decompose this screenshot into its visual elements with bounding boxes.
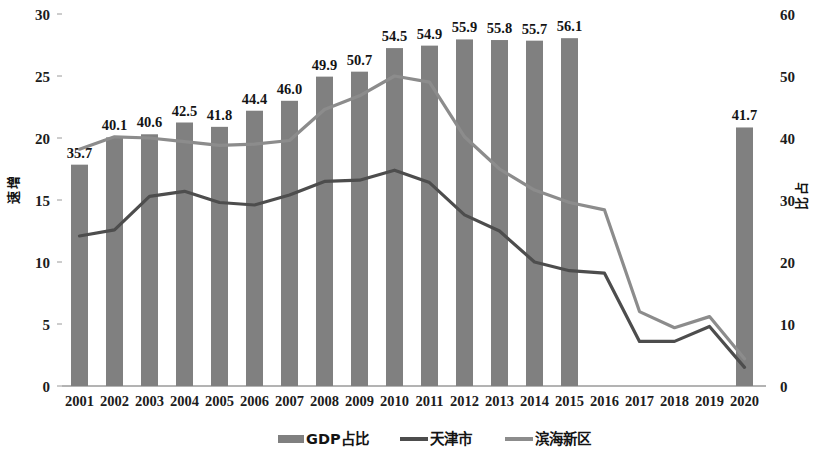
y2-axis-tick-label: 10	[780, 317, 795, 333]
bar	[316, 77, 333, 386]
bar-value-label: 41.8	[207, 107, 232, 123]
bar	[211, 127, 228, 386]
y2-axis-tick-label: 20	[780, 255, 795, 271]
y-axis-tick-label: 0	[43, 379, 51, 395]
legend-label: 天津市	[430, 430, 473, 447]
x-axis-tick-label: 2020	[730, 393, 759, 409]
bar	[141, 134, 158, 386]
x-axis-tick-label: 2010	[380, 393, 409, 409]
x-axis-tick-label: 2016	[590, 393, 619, 409]
chart-background	[0, 0, 822, 460]
bar-value-label: 40.6	[137, 114, 162, 130]
bar-value-label: 40.1	[102, 117, 127, 133]
bar-value-label: 42.5	[172, 103, 197, 119]
chart-legend: GDP占比天津市滨海新区	[278, 430, 592, 447]
bar-value-label: 56.1	[557, 18, 582, 34]
bar	[526, 41, 543, 386]
bar	[246, 111, 263, 386]
x-axis-tick-label: 2005	[205, 393, 234, 409]
x-axis-tick-label: 2004	[170, 393, 199, 409]
y2-axis-tick-label: 40	[780, 131, 795, 147]
x-axis-tick-label: 2001	[65, 393, 94, 409]
x-axis-tick-label: 2003	[135, 393, 164, 409]
bar-value-label: 50.7	[347, 52, 372, 68]
x-axis-tick-label: 2011	[415, 393, 443, 409]
x-axis-tick-label: 2019	[695, 393, 724, 409]
bar	[176, 123, 193, 387]
bar-value-label: 54.9	[417, 26, 442, 42]
axis-title-char: 增	[6, 176, 21, 189]
bar	[736, 127, 753, 386]
x-axis-tick-label: 2007	[275, 393, 304, 409]
y-axis-tick-label: 5	[43, 317, 51, 333]
axis-title-char: 占	[794, 182, 809, 195]
x-axis-tick-label: 2008	[310, 393, 339, 409]
bar-value-label: 49.9	[312, 57, 337, 73]
y2-axis-tick-label: 0	[780, 379, 788, 395]
bar	[351, 72, 368, 386]
bar-value-label: 55.8	[487, 20, 512, 36]
y-axis-tick-label: 15	[35, 193, 50, 209]
x-axis-tick-label: 2006	[240, 393, 269, 409]
x-axis-tick-label: 2017	[625, 393, 654, 409]
y-axis-tick-label: 25	[35, 69, 50, 85]
bar	[561, 38, 578, 386]
y2-axis-tick-label: 30	[780, 193, 795, 209]
bar	[71, 165, 88, 386]
bar-value-label: 55.9	[452, 19, 477, 35]
bar	[421, 46, 438, 386]
y-axis-tick-label: 20	[35, 131, 50, 147]
x-axis-tick-label: 2013	[485, 393, 514, 409]
y2-axis-tick-label: 60	[780, 7, 795, 23]
y-axis-tick-label: 10	[35, 255, 50, 271]
legend-bar-swatch	[278, 435, 304, 443]
bar	[106, 137, 123, 386]
x-axis-tick-label: 2014	[520, 393, 549, 409]
x-axis-tick-label: 2002	[100, 393, 129, 409]
combo-chart: 302520151050 6050403020100 35.740.140.64…	[0, 0, 822, 460]
y-axis-tick-label: 30	[35, 7, 50, 23]
x-axis-tick-label: 2018	[660, 393, 689, 409]
legend-label: GDP占比	[306, 430, 369, 447]
bar-value-label: 54.5	[382, 28, 407, 44]
y2-axis-tick-label: 50	[780, 69, 795, 85]
bar	[386, 48, 403, 386]
bar-value-label: 55.7	[522, 21, 547, 37]
bar	[456, 39, 473, 386]
x-axis-tick-label: 2015	[555, 393, 584, 409]
bar-value-label: 44.4	[242, 91, 267, 107]
x-axis-tick-label: 2012	[450, 393, 479, 409]
legend-label: 滨海新区	[535, 430, 592, 447]
x-axis-tick-label: 2009	[345, 393, 374, 409]
axis-title-char: 比	[794, 197, 809, 210]
chart-svg: 302520151050 6050403020100 35.740.140.64…	[0, 0, 822, 460]
axis-title-char: 速	[6, 191, 21, 204]
bar-value-label: 41.7	[732, 107, 757, 123]
bar	[281, 101, 298, 386]
bar-value-label: 46.0	[277, 81, 302, 97]
bar	[491, 40, 508, 386]
